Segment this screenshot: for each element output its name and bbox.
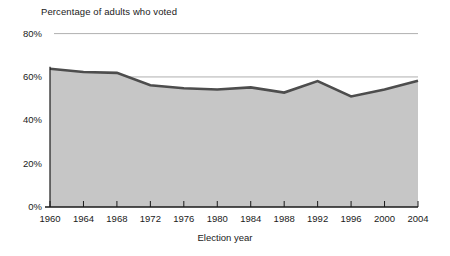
x-tick-label-1984: 1984 xyxy=(233,213,269,224)
x-tick-label-2004: 2004 xyxy=(400,213,436,224)
chart-figure: Percentage of adults who voted 80%60%40%… xyxy=(0,0,450,256)
x-tick-label-1976: 1976 xyxy=(166,213,202,224)
x-tick-label-2000: 2000 xyxy=(367,213,403,224)
x-tick-label-1972: 1972 xyxy=(132,213,168,224)
gridlines-group xyxy=(54,34,418,77)
x-tick-label-1980: 1980 xyxy=(199,213,235,224)
x-tick-label-1968: 1968 xyxy=(99,213,135,224)
y-tick-label-20: 20% xyxy=(8,158,42,169)
y-tick-label-80: 80% xyxy=(8,28,42,39)
y-tick-label-0: 0% xyxy=(8,201,42,212)
x-tick-label-1988: 1988 xyxy=(266,213,302,224)
x-tick-label-1964: 1964 xyxy=(65,213,101,224)
x-tick-label-1992: 1992 xyxy=(300,213,336,224)
x-tick-label-1996: 1996 xyxy=(333,213,369,224)
x-tick-label-1960: 1960 xyxy=(32,213,68,224)
y-tick-label-60: 60% xyxy=(8,71,42,82)
y-tick-label-40: 40% xyxy=(8,114,42,125)
x-axis-title: Election year xyxy=(0,232,450,243)
